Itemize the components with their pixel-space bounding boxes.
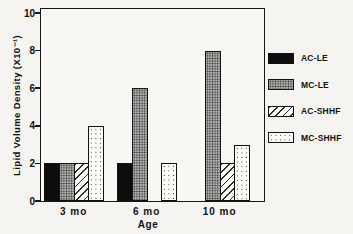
bar-ac-le-3mo (44, 163, 60, 201)
x-tick-label: 6 mo (119, 206, 175, 217)
y-tick-label: 10 (11, 8, 35, 19)
y-tick-mark (35, 125, 40, 127)
y-tick-mark (35, 200, 40, 202)
bar-mc-le-10mo (205, 51, 221, 201)
x-axis-title: Age (121, 219, 175, 230)
legend-label: AC-SHHF (301, 106, 341, 116)
y-tick-label: 0 (11, 196, 35, 207)
y-tick-label: 8 (11, 45, 35, 56)
y-tick-label: 2 (11, 158, 35, 169)
legend-swatch-solid-black (268, 53, 294, 64)
bar-ac-shhf-3mo (74, 163, 90, 201)
bar-mc-shhf-10mo (234, 145, 250, 201)
legend-item-mc-shhf: MC-SHHF (268, 132, 342, 144)
x-tick-label: 3 mo (46, 206, 102, 217)
y-tick-mark (35, 87, 40, 89)
y-tick-mark (35, 163, 40, 165)
legend-item-mc-le: MC-LE (268, 79, 329, 91)
x-tick-label: 10 mo (192, 206, 248, 217)
legend-label: MC-SHHF (301, 133, 342, 143)
bar-mc-le-6mo (132, 88, 148, 201)
legend-swatch-sparse-dots (268, 132, 294, 143)
legend-swatch-diagonal-hatch (268, 106, 294, 117)
bar-mc-shhf-6mo (161, 163, 177, 201)
legend-label: MC-LE (301, 80, 329, 90)
legend-item-ac-shhf: AC-SHHF (268, 105, 341, 117)
y-tick-mark (35, 12, 40, 14)
legend-label: AC-LE (301, 53, 328, 63)
bar-ac-shhf-10mo (220, 163, 236, 201)
y-tick-label: 4 (11, 120, 35, 131)
y-tick-label: 6 (11, 83, 35, 94)
bar-ac-le-6mo (117, 163, 133, 201)
bar-mc-le-3mo (59, 163, 75, 201)
legend-item-ac-le: AC-LE (268, 52, 328, 64)
y-tick-mark (35, 50, 40, 52)
bar-chart-figure: Lipid Volume Density (X10⁻¹) 0246810 3 m… (0, 0, 353, 234)
legend-swatch-gray-stipple (268, 79, 294, 90)
bar-mc-shhf-3mo (88, 126, 104, 201)
y-axis-title: Lipid Volume Density (X10⁻¹) (11, 6, 24, 206)
